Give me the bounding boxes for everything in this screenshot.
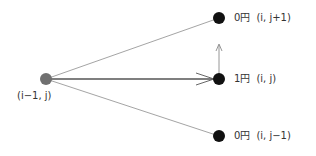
target-node-up: [213, 12, 225, 24]
node-coordinate: (i, j): [256, 73, 276, 84]
node-coordinate: (i, j−1): [256, 130, 290, 141]
source-node: [40, 73, 52, 85]
payoff-value: 1円: [234, 73, 250, 84]
node-coordinate: (i, j+1): [256, 12, 290, 23]
payoff-value: 0円: [234, 12, 250, 23]
edge-up: [46, 18, 219, 79]
target-label-down: 0円(i, j−1): [234, 130, 291, 142]
target-node-down: [213, 130, 225, 142]
target-label-mid: 1円(i, j): [234, 73, 276, 85]
source-node-label: (i−1, j): [17, 90, 51, 101]
edge-down: [46, 79, 219, 136]
target-node-mid: [213, 73, 225, 85]
target-label-up: 0円(i, j+1): [234, 12, 291, 24]
payoff-value: 0円: [234, 130, 250, 141]
